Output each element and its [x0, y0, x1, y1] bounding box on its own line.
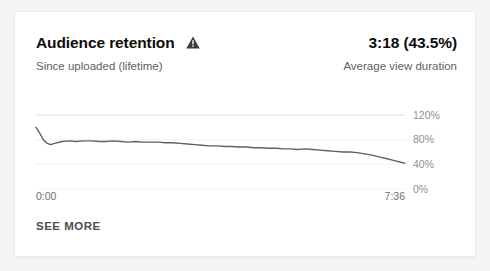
- y-tick-label: 80%: [413, 133, 434, 145]
- audience-retention-card: Audience retention Since uploaded (lifet…: [14, 11, 476, 257]
- metric-label: Average view duration: [343, 59, 457, 73]
- warning-triangle-icon[interactable]: [186, 36, 200, 50]
- card-header: Audience retention Since uploaded (lifet…: [36, 32, 457, 80]
- y-axis-tick-labels: 120% 80% 40% 0%: [413, 109, 440, 195]
- card-subtitle: Since uploaded (lifetime): [36, 59, 200, 73]
- retention-chart: 120% 80% 40% 0% 0:00 7:36: [15, 90, 477, 208]
- page-title: Audience retention: [36, 32, 175, 53]
- y-tick-label: 120%: [413, 109, 440, 121]
- metric-value: 3:18 (43.5%): [343, 32, 457, 53]
- x-tick-label-start: 0:00: [36, 190, 57, 202]
- retention-line: [36, 127, 405, 163]
- card-header-right: 3:18 (43.5%) Average view duration: [343, 32, 457, 73]
- y-tick-label: 40%: [413, 158, 434, 170]
- x-tick-label-end: 7:36: [385, 190, 406, 202]
- card-header-left: Audience retention Since uploaded (lifet…: [36, 32, 200, 73]
- title-row: Audience retention: [36, 32, 200, 53]
- y-tick-label: 0%: [413, 183, 428, 195]
- retention-chart-svg: 120% 80% 40% 0% 0:00 7:36: [15, 90, 477, 208]
- see-more-button[interactable]: SEE MORE: [36, 219, 101, 233]
